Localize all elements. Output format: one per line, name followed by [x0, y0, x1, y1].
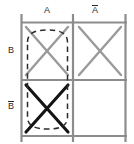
cell-mark-notb-nota[interactable] — [74, 81, 125, 135]
row-header-b: B — [4, 46, 18, 55]
karnaugh-map-diagram: A A B B — [0, 0, 134, 144]
column-header-a-text: A — [44, 5, 50, 15]
row-header-not-b-text: B — [8, 101, 14, 111]
row-header-not-b: B — [3, 101, 19, 111]
cell-mark-notb-a[interactable] — [26, 85, 68, 132]
kmap-canvas — [0, 0, 134, 144]
column-header-a: A — [38, 6, 56, 15]
cell-mark-b-a[interactable] — [26, 27, 68, 75]
column-header-not-a-text: A — [92, 5, 98, 15]
row-header-b-text: B — [8, 45, 14, 55]
cell-mark-b-nota[interactable] — [79, 27, 121, 75]
column-header-not-a: A — [86, 5, 104, 15]
